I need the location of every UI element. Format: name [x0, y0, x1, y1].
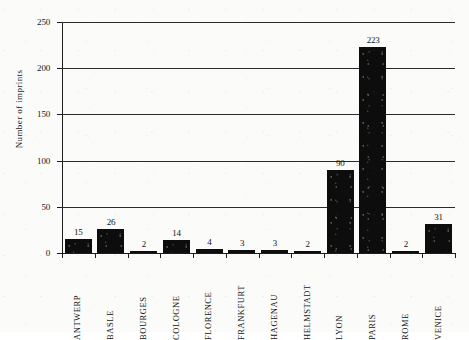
y-axis-tick-label: 50 — [4, 202, 50, 212]
category-label: ANTWERP — [72, 295, 82, 340]
y-axis-tick-label: 250 — [4, 17, 50, 27]
bar-value-label: 90 — [324, 158, 357, 168]
category-label: BASLE — [105, 310, 115, 340]
bar-value-label: 15 — [62, 227, 95, 237]
y-axis-title: Number of imprints — [14, 54, 24, 164]
y-axis-tick-label: 150 — [4, 109, 50, 119]
category-label-slot: LYON — [324, 258, 357, 332]
category-label: FRANKFURT — [236, 285, 246, 340]
category-label: BOURGES — [138, 296, 148, 340]
category-label-slot: VENICE — [422, 258, 455, 332]
bar-value-label: 4 — [193, 237, 226, 247]
category-label: FLORENCE — [203, 292, 213, 340]
category-label-slot: ANTWERP — [62, 258, 95, 332]
category-label-slot: FLORENCE — [193, 258, 226, 332]
bar-slot — [259, 22, 292, 253]
category-label: ROME — [400, 313, 410, 340]
bar-slot — [160, 22, 193, 253]
category-label: PARIS — [367, 314, 377, 340]
category-label-slot: ROME — [390, 258, 423, 332]
bar — [392, 251, 419, 254]
y-axis-tick-label: 100 — [4, 156, 50, 166]
bar-value-label: 3 — [259, 238, 292, 248]
category-label-slot: PARIS — [357, 258, 390, 332]
bar-slot — [291, 22, 324, 253]
category-label: HELMSTADT — [302, 284, 312, 340]
bar-slot — [193, 22, 226, 253]
bar-slot — [128, 22, 161, 253]
bar-value-label: 2 — [128, 239, 161, 249]
bar — [228, 250, 255, 253]
bar — [294, 251, 321, 254]
bar-value-label: 223 — [357, 35, 390, 45]
x-axis-tick — [455, 253, 456, 258]
bar-value-label: 14 — [160, 228, 193, 238]
bar — [196, 249, 223, 253]
bar-slot — [62, 22, 95, 253]
bar — [130, 251, 157, 254]
bar — [327, 170, 354, 253]
category-label: VENICE — [433, 306, 443, 340]
category-label-slot: BASLE — [95, 258, 128, 332]
bar-slot — [226, 22, 259, 253]
bar — [425, 224, 452, 253]
y-axis-tick-label: 0 — [4, 248, 50, 258]
bar — [163, 240, 190, 253]
bar-slot — [357, 22, 390, 253]
category-label-slot: BOURGES — [128, 258, 161, 332]
bar — [261, 250, 288, 253]
bar-value-label: 3 — [226, 238, 259, 248]
bar-value-label: 26 — [95, 217, 128, 227]
y-axis-tick-label: 200 — [4, 63, 50, 73]
category-label: COLOGNE — [171, 296, 181, 340]
bar-value-label: 31 — [422, 212, 455, 222]
bar-value-label: 2 — [390, 239, 423, 249]
bar-value-label: 2 — [291, 239, 324, 249]
category-label-slot: HELMSTADT — [291, 258, 324, 332]
bar-slot — [390, 22, 423, 253]
category-label: LYON — [334, 315, 344, 340]
bar — [65, 239, 92, 253]
category-label: HAGENAU — [269, 294, 279, 340]
category-label-slot: HAGENAU — [259, 258, 292, 332]
bar — [359, 47, 386, 253]
category-label-slot: FRANKFURT — [226, 258, 259, 332]
category-label-slot: COLOGNE — [160, 258, 193, 332]
bar — [97, 229, 124, 253]
bar-slot — [324, 22, 357, 253]
